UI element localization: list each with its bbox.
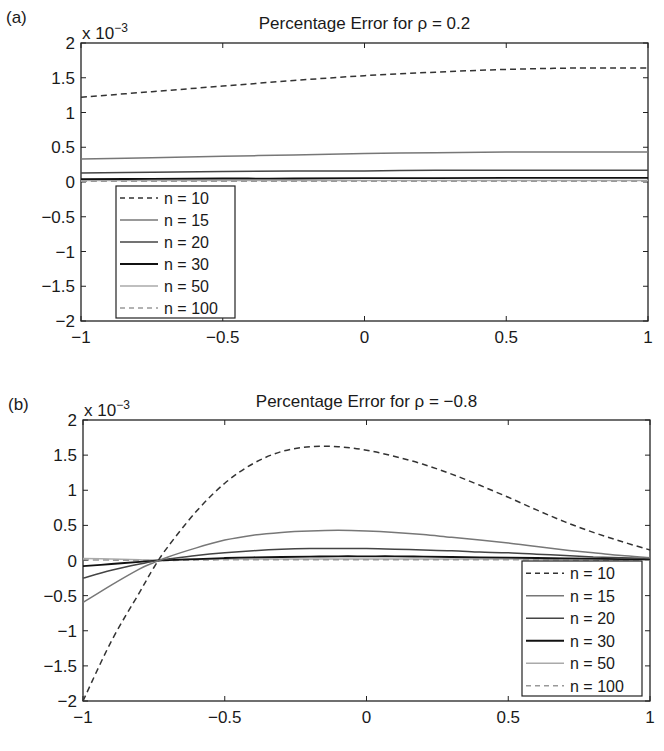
legend-entry-label: n = 15	[570, 588, 615, 605]
x-tick-label: −1	[73, 708, 92, 727]
x-tick-label: 0.5	[494, 328, 518, 347]
x-tick-label: 0	[362, 708, 371, 727]
x-tick-label: 1	[643, 328, 652, 347]
legend-entry-label: n = 30	[164, 256, 209, 273]
x-tick-label: 1	[645, 708, 654, 727]
legend-entry-label: n = 50	[570, 655, 615, 672]
series-line-n10	[81, 68, 648, 97]
legend-entry-label: n = 10	[164, 190, 209, 207]
legend-entry-label: n = 30	[570, 633, 615, 650]
chart-title: Percentage Error for ρ = 0.2	[259, 14, 470, 33]
legend-entry-label: n = 10	[570, 565, 615, 582]
y-tick-label: 1	[68, 481, 77, 500]
legend-entry-label: n = 100	[570, 678, 624, 695]
x-tick-label: −0.5	[206, 328, 240, 347]
y-exponent-label: x 10−3	[82, 21, 128, 43]
y-tick-label: 2	[66, 34, 75, 53]
y-tick-label: 0	[66, 173, 75, 192]
figure: (a)Percentage Error for ρ = 0.2x 10−321.…	[0, 0, 664, 751]
y-tick-label: 1.5	[53, 446, 77, 465]
panel-label: (b)	[8, 395, 29, 414]
legend-entry-label: n = 15	[164, 212, 209, 229]
y-tick-label: 1.5	[51, 69, 75, 88]
y-tick-label: 2	[68, 411, 77, 430]
y-tick-label: 0.5	[51, 138, 75, 157]
legend-entry-label: n = 50	[164, 278, 209, 295]
x-tick-label: −1	[71, 328, 90, 347]
y-tick-label: −1.5	[41, 277, 75, 296]
x-tick-label: −0.5	[208, 708, 242, 727]
y-tick-label: 0	[68, 552, 77, 571]
y-tick-label: −1	[56, 243, 75, 262]
panel-a: (a)Percentage Error for ρ = 0.2x 10−321.…	[6, 8, 653, 347]
series-line-n15	[81, 152, 648, 159]
panel-b: (b)Percentage Error for ρ = −0.8x 10−321…	[8, 392, 655, 727]
panel-label: (a)	[6, 8, 27, 27]
y-tick-label: −0.5	[41, 208, 75, 227]
legend-entry-label: n = 20	[570, 610, 615, 627]
y-tick-label: 0.5	[53, 516, 77, 535]
x-tick-label: 0.5	[496, 708, 520, 727]
legend: n = 10n = 15n = 20n = 30n = 50n = 100	[116, 186, 235, 318]
x-tick-label: 0	[360, 328, 369, 347]
y-tick-label: 1	[66, 104, 75, 123]
series-line-n30	[81, 178, 648, 179]
series-line-n20	[81, 170, 648, 173]
legend-entry-label: n = 100	[164, 300, 218, 317]
y-tick-label: −1	[58, 622, 77, 641]
legend: n = 10n = 15n = 20n = 30n = 50n = 100	[522, 561, 642, 696]
y-tick-label: −1.5	[43, 657, 77, 676]
y-exponent-label: x 10−3	[84, 398, 130, 420]
y-tick-label: −0.5	[43, 587, 77, 606]
legend-entry-label: n = 20	[164, 234, 209, 251]
chart-title: Percentage Error for ρ = −0.8	[256, 392, 477, 411]
